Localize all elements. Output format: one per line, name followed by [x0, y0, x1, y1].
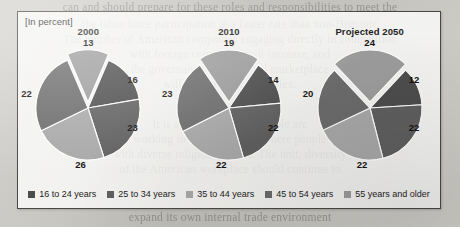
legend-swatch-icon [107, 191, 114, 198]
pie-slice-label: 22 [216, 159, 227, 170]
pie-slice-label: 22 [268, 122, 279, 133]
legend-label: 45 to 54 years [276, 189, 333, 199]
pie-slice-label: 12 [409, 74, 420, 85]
pie-slice-label: 23 [162, 88, 173, 99]
legend-label: 16 to 24 years [39, 189, 96, 199]
pie-slice-label: 14 [268, 74, 279, 85]
legend-item: 25 to 34 years [107, 189, 175, 199]
pie-title: Projected 2050 [305, 26, 435, 37]
pie-svg [26, 46, 150, 170]
chart-legend: 16 to 24 years25 to 34 years35 to 44 yea… [18, 189, 440, 199]
legend-label: 35 to 44 years [197, 189, 254, 199]
pie-slice-label: 23 [127, 122, 138, 133]
legend-swatch-icon [265, 191, 272, 198]
pie-chart: 20001316232622 [23, 26, 153, 176]
legend-swatch-icon [344, 191, 351, 198]
pie-chart-row: 2000131623262220101914222223Projected 20… [18, 26, 440, 176]
pie-slice-label: 26 [75, 159, 86, 170]
pie-slice-label: 22 [409, 122, 420, 133]
legend-item: 55 years and older [344, 189, 430, 199]
pie-slice-label: 22 [357, 159, 368, 170]
background-text-line: expand its own internal trade environmen… [0, 211, 460, 223]
scanned-page-background: can and should prepare for these roles a… [0, 0, 460, 227]
legend-swatch-icon [28, 191, 35, 198]
pie-slice-label: 20 [303, 88, 314, 99]
pie-chart: Projected 20502412222220 [305, 26, 435, 176]
figure-box: [In percent] 200013162326222010191422222… [17, 11, 441, 209]
legend-label: 25 to 34 years [118, 189, 175, 199]
pie-chart: 20101914222223 [164, 26, 294, 176]
legend-item: 16 to 24 years [28, 189, 96, 199]
pie-slice-label: 22 [21, 88, 32, 99]
pie-svg [167, 46, 291, 170]
legend-item: 35 to 44 years [186, 189, 254, 199]
legend-swatch-icon [186, 191, 193, 198]
legend-label: 55 years and older [355, 189, 430, 199]
pie-title: 2000 [23, 26, 153, 37]
pie-svg [308, 46, 432, 170]
pie-slice-label: 16 [127, 74, 138, 85]
pie-title: 2010 [164, 26, 294, 37]
legend-item: 45 to 54 years [265, 189, 333, 199]
